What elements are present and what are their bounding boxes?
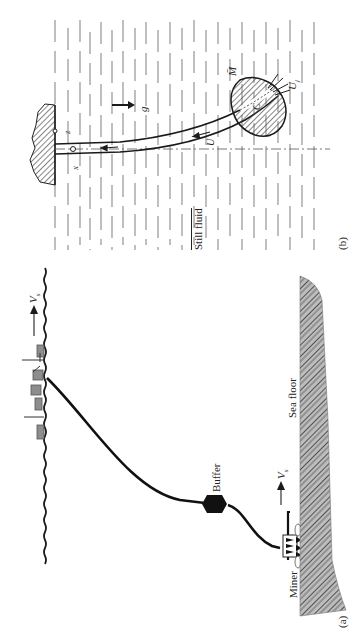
ship-velocity-arrow-icon [30, 305, 38, 336]
centroid-label: C [251, 103, 262, 110]
miner-icon [283, 512, 302, 568]
miner-label: Miner [287, 571, 299, 598]
panel-b-label: (b) [336, 237, 348, 250]
buffer-icon [202, 495, 227, 513]
still-fluid-dashes [55, 20, 314, 250]
z-axis-label: z [62, 130, 72, 134]
sea-surface [44, 268, 46, 564]
panel-a-label: (a) [336, 616, 348, 628]
sea-floor-label: Sea floor [286, 378, 298, 418]
riser-pipe [47, 378, 280, 548]
ship-velocity-label: Vs [27, 294, 42, 303]
ship-icon [22, 345, 44, 439]
jet-velocity-label: Uj [286, 80, 301, 90]
nozzle-origin [71, 147, 76, 152]
miner-velocity-arrow-icon [277, 481, 285, 505]
diagram-canvas [0, 0, 359, 638]
sea-floor [300, 276, 346, 616]
still-fluid-label: Still fluid [192, 208, 204, 250]
miner-velocity-label: Vs [275, 470, 290, 479]
gravity-label: g [137, 107, 149, 113]
flow-velocity-label: U [205, 139, 216, 146]
x-axis-label: x [70, 166, 80, 170]
momentum-label: M̄ [226, 67, 238, 76]
buffer-label: Buffer [210, 463, 222, 492]
wall-block [30, 104, 55, 185]
